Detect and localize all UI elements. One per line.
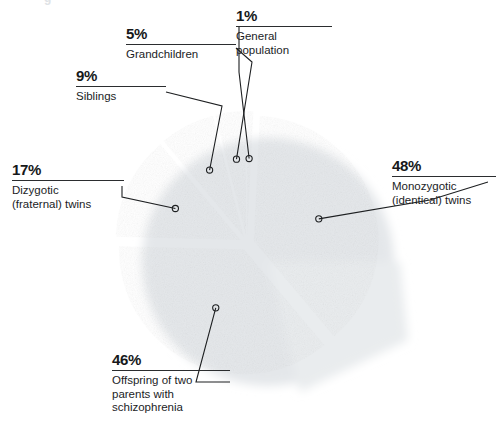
callout-grandchildren: 5% Grandchildren	[126, 26, 236, 62]
callout-offspring-two-parents-name: Offspring of two parents with schizophre…	[112, 374, 230, 415]
callout-dizygotic-twins-percent: 17%	[12, 162, 124, 178]
callout-general-population: 1% General population	[236, 8, 332, 57]
callout-monozygotic-twins-rule	[392, 176, 496, 177]
callout-monozygotic-twins: 48% Monozygotic (identical) twins	[392, 158, 496, 207]
callout-siblings-name: Siblings	[76, 90, 166, 104]
callout-general-population-percent: 1%	[236, 8, 332, 24]
callout-general-population-name: General population	[236, 30, 332, 57]
callout-offspring-two-parents-rule	[112, 370, 230, 371]
callout-offspring-two-parents: 46% Offspring of two parents with schizo…	[112, 352, 230, 415]
callout-monozygotic-twins-name: Monozygotic (identical) twins	[392, 180, 496, 207]
callout-dizygotic-twins: 17% Dizygotic (fraternal) twins	[12, 162, 124, 211]
callout-grandchildren-rule	[126, 44, 236, 45]
callout-dizygotic-twins-name: Dizygotic (fraternal) twins	[12, 184, 124, 211]
callout-dizygotic-twins-rule	[12, 180, 124, 181]
callout-offspring-two-parents-percent: 46%	[112, 352, 230, 368]
callout-siblings: 9% Siblings	[76, 68, 166, 104]
callout-monozygotic-twins-percent: 48%	[392, 158, 496, 174]
callout-siblings-rule	[76, 86, 166, 87]
chart-canvas: g 1% General population	[0, 0, 496, 434]
pie-chart-graphic	[0, 0, 496, 434]
callout-general-population-rule	[236, 26, 332, 27]
callout-grandchildren-name: Grandchildren	[126, 48, 236, 62]
callout-siblings-percent: 9%	[76, 68, 166, 84]
callout-grandchildren-percent: 5%	[126, 26, 236, 42]
